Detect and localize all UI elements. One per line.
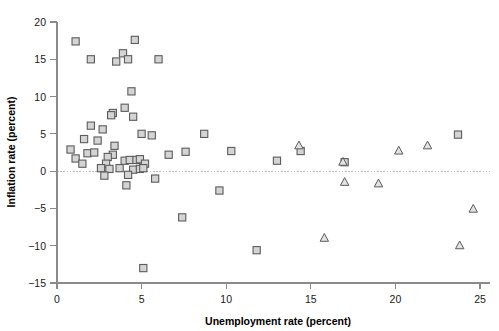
x-tick-label-5: 25 bbox=[474, 293, 486, 305]
data-point-square-34 bbox=[182, 148, 189, 155]
data-points-group bbox=[67, 36, 477, 271]
axis-tick-labels-group: 0510152025−15−10−505101520 bbox=[28, 16, 486, 305]
data-point-square-18 bbox=[80, 135, 87, 142]
data-point-square-21 bbox=[84, 150, 91, 157]
data-point-square-22 bbox=[91, 149, 98, 156]
data-point-triangle-4 bbox=[395, 146, 403, 154]
data-point-square-49 bbox=[152, 175, 159, 182]
data-point-square-17 bbox=[454, 131, 461, 138]
data-point-square-25 bbox=[111, 142, 118, 149]
axes-group bbox=[57, 22, 490, 283]
data-point-square-52 bbox=[253, 247, 260, 254]
data-point-square-0 bbox=[72, 38, 79, 45]
data-point-square-13 bbox=[99, 126, 106, 133]
data-point-triangle-2 bbox=[340, 178, 348, 186]
data-point-square-41 bbox=[106, 165, 113, 172]
x-tick-label-0: 0 bbox=[54, 293, 60, 305]
data-point-square-19 bbox=[94, 137, 101, 144]
data-point-triangle-8 bbox=[455, 241, 463, 249]
y-tick-label-3: 0 bbox=[40, 165, 46, 177]
data-point-square-48 bbox=[123, 182, 130, 189]
x-axis-title: Unemployment rate (percent) bbox=[205, 315, 351, 327]
data-point-square-8 bbox=[121, 104, 128, 111]
y-tick-label-5: 10 bbox=[34, 91, 46, 103]
data-point-square-23 bbox=[72, 155, 79, 162]
data-point-square-1 bbox=[87, 56, 94, 63]
data-point-square-42 bbox=[116, 165, 123, 172]
data-point-triangle-0 bbox=[295, 141, 303, 149]
data-point-square-10 bbox=[108, 112, 115, 119]
y-tick-label-6: 15 bbox=[34, 53, 46, 65]
data-point-square-12 bbox=[87, 122, 94, 129]
y-tick-label-4: 5 bbox=[40, 128, 46, 140]
data-point-square-36 bbox=[273, 157, 280, 164]
reference-lines-group bbox=[57, 171, 490, 283]
data-point-square-40 bbox=[97, 165, 104, 172]
data-point-square-15 bbox=[148, 132, 155, 139]
data-point-square-29 bbox=[126, 156, 133, 163]
y-tick-label-1: −10 bbox=[28, 240, 46, 252]
x-tick-label-3: 15 bbox=[305, 293, 317, 305]
data-point-square-50 bbox=[216, 187, 223, 194]
x-tick-label-2: 10 bbox=[220, 293, 232, 305]
data-point-square-20 bbox=[67, 146, 74, 153]
data-point-square-47 bbox=[124, 171, 131, 178]
y-tick-label-0: −15 bbox=[28, 277, 46, 289]
data-point-square-5 bbox=[131, 36, 138, 43]
data-point-square-16 bbox=[201, 130, 208, 137]
x-tick-label-4: 20 bbox=[390, 293, 402, 305]
data-point-square-14 bbox=[138, 130, 145, 137]
data-point-square-35 bbox=[228, 147, 235, 154]
data-point-square-45 bbox=[140, 165, 147, 172]
y-tick-label-7: 20 bbox=[34, 16, 46, 28]
data-point-triangle-3 bbox=[374, 179, 382, 187]
data-point-square-27 bbox=[104, 153, 111, 160]
data-point-square-33 bbox=[165, 151, 172, 158]
y-axis-title: Inflation rate (percent) bbox=[5, 97, 17, 208]
y-tick-label-2: −5 bbox=[34, 202, 46, 214]
data-point-triangle-6 bbox=[320, 234, 328, 242]
x-tick-label-1: 5 bbox=[139, 293, 145, 305]
data-point-square-11 bbox=[130, 113, 137, 120]
data-point-square-24 bbox=[79, 160, 86, 167]
data-point-square-7 bbox=[128, 88, 135, 95]
scatter-plot-figure: 0510152025−15−10−505101520 Unemployment … bbox=[0, 0, 499, 331]
data-point-square-4 bbox=[124, 56, 131, 63]
data-point-triangle-5 bbox=[423, 141, 431, 149]
data-point-square-6 bbox=[155, 56, 162, 63]
data-point-square-51 bbox=[179, 214, 186, 221]
data-point-square-2 bbox=[113, 58, 120, 65]
scatter-plot-canvas: 0510152025−15−10−505101520 Unemployment … bbox=[0, 0, 499, 331]
data-point-square-53 bbox=[140, 264, 147, 271]
data-point-square-46 bbox=[101, 172, 108, 179]
data-point-triangle-7 bbox=[469, 204, 477, 212]
